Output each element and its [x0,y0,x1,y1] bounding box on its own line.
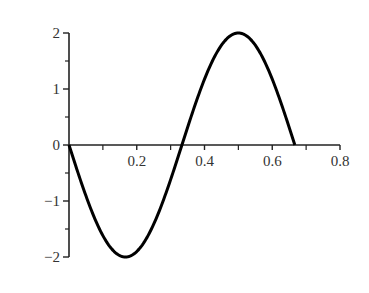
y-tick-label: 0 [53,137,61,153]
y-tick-label: −1 [44,193,60,209]
x-axis: 0.20.40.60.8 [69,145,349,169]
x-tick-label: 0.6 [263,153,282,169]
y-axis: 210−1−2 [44,25,69,265]
x-tick-label: 0.8 [331,153,350,169]
y-tick-label: −2 [44,249,60,265]
x-tick-label: 0.4 [195,153,214,169]
y-tick-label: 2 [53,25,61,41]
x-tick-label: 0.2 [127,153,146,169]
y-tick-label: 1 [53,81,61,97]
line-chart: 210−1−2 0.20.40.60.8 [0,0,369,293]
